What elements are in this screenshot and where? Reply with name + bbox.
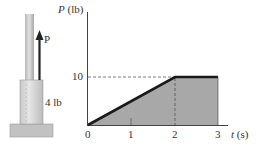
y-axis-unit: (lb)	[67, 3, 83, 15]
figure-canvas	[0, 0, 256, 147]
x-tick-label-3: 3	[215, 129, 221, 140]
y-tick-label-10: 10	[72, 71, 83, 82]
guide-rod	[25, 14, 34, 84]
force-time-graph	[87, 12, 228, 126]
force-arrow-icon	[36, 30, 44, 80]
x-tick-label-0: 0	[85, 129, 91, 140]
force-label: P	[44, 34, 50, 45]
base-plate	[10, 124, 53, 137]
y-axis-symbol: P	[58, 3, 65, 15]
impulse-area	[88, 77, 218, 125]
weight-label: 4 lb	[45, 97, 62, 108]
x-axis-unit: (s)	[237, 128, 249, 140]
x-tick-label-1: 1	[128, 129, 134, 140]
x-axis-title: t (s)	[231, 129, 248, 140]
x-axis-symbol: t	[231, 128, 234, 140]
y-axis-title: P (lb)	[58, 4, 83, 15]
collar-block	[20, 80, 43, 124]
x-tick-label-2: 2	[172, 129, 178, 140]
